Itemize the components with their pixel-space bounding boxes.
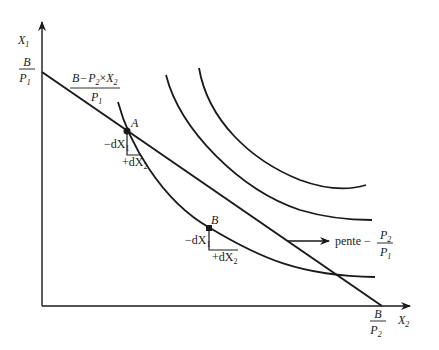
svg-text:P1: P1 (18, 71, 30, 87)
svg-text:B: B (374, 307, 382, 321)
x-axis-label: X2 (397, 313, 409, 329)
svg-text:P1: P1 (90, 90, 102, 106)
point-b-triangle (209, 228, 238, 250)
svg-text:P2: P2 (369, 323, 381, 339)
svg-text:B−P2×X2: B−P2×X2 (72, 71, 118, 87)
point-b-label: B (211, 213, 219, 227)
budget-formula-label: B−P2×X2 P1 (70, 71, 120, 106)
indifference-curve-3 (199, 68, 366, 189)
svg-text:P2: P2 (379, 228, 391, 244)
point-a-dx2-label: +dX2 (122, 155, 147, 171)
svg-text:B: B (23, 55, 31, 69)
indifference-curve-1 (118, 102, 375, 277)
y-axis-label: X1 (17, 33, 29, 49)
diagram-canvas: X1 X2 B P1 B P2 B−P2×X2 P1 A −dX1 +dX2 B… (0, 0, 439, 350)
point-b-dx2-label: +dX2 (212, 250, 237, 266)
svg-text:pente −: pente − (335, 234, 371, 248)
y-intercept-label: B P1 (18, 55, 35, 87)
indifference-curve-2 (166, 75, 372, 220)
point-a-label: A (130, 116, 139, 130)
point-a-dx1-label: −dX1 (104, 137, 129, 153)
x-intercept-label: B P2 (369, 307, 386, 339)
slope-annotation-label: pente − P2 P1 (335, 228, 393, 261)
svg-text:P1: P1 (379, 245, 391, 261)
point-b-dx1-label: −dX1 (185, 233, 210, 249)
